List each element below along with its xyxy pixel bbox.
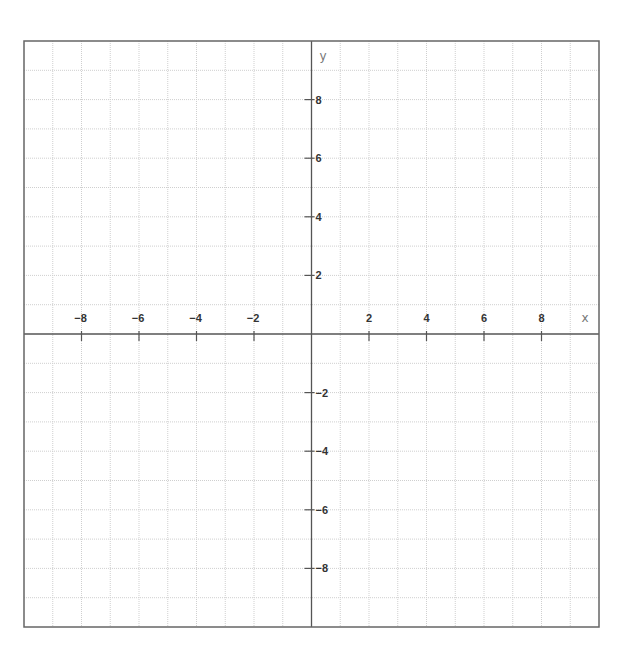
coordinate-plane: −8−6−4−224688642−2−4−6−8 x y	[0, 0, 627, 670]
y-tick-label: −6	[316, 504, 329, 516]
y-tick-label: 4	[316, 211, 323, 223]
x-tick-label: −2	[247, 312, 260, 324]
x-tick-label: 8	[538, 312, 544, 324]
x-tick-label: 2	[366, 312, 372, 324]
x-tick-label: 4	[423, 312, 430, 324]
y-tick-label: 2	[316, 269, 322, 281]
y-tick-label: −2	[316, 387, 329, 399]
x-tick-label: −4	[189, 312, 202, 324]
x-tick-label: −6	[132, 312, 145, 324]
x-tick-label: 6	[481, 312, 487, 324]
y-tick-label: −4	[316, 445, 329, 457]
y-axis-label: y	[319, 49, 326, 63]
y-tick-label: 8	[316, 94, 322, 106]
x-axis-label: x	[581, 311, 588, 325]
x-tick-label: −8	[74, 312, 87, 324]
y-tick-label: −8	[316, 562, 329, 574]
y-tick-label: 6	[316, 152, 322, 164]
